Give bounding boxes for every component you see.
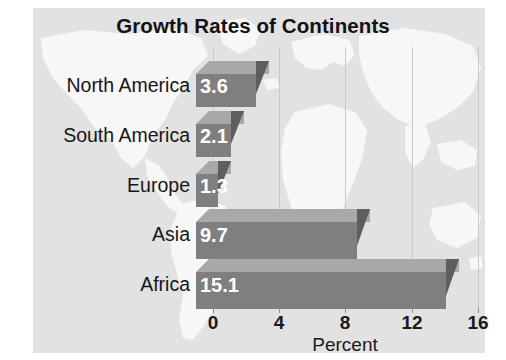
chart-title: Growth Rates of Continents: [0, 14, 506, 38]
bar-top-face-asia: [196, 209, 370, 222]
bar-value-europe: 1.3: [200, 175, 228, 198]
x-axis-title: Percent: [265, 334, 425, 356]
bar-side-face-africa: [446, 259, 459, 296]
bar-side-face-south-america: [231, 111, 244, 144]
bar-side-face-asia: [357, 209, 370, 246]
tick-label-8: 8: [325, 312, 365, 334]
category-label-asia: Asia: [0, 223, 190, 246]
bar-value-africa: 15.1: [200, 274, 239, 297]
tick-label-4: 4: [259, 312, 299, 334]
bar-value-north-america: 3.6: [200, 75, 228, 98]
category-label-africa: Africa: [0, 273, 190, 296]
tick-label-12: 12: [392, 312, 432, 334]
chart-plot-area: 3.6 North America 2.1 South America 1.3 …: [0, 0, 506, 360]
bar-value-south-america: 2.1: [200, 125, 228, 148]
gridline-16: [478, 47, 479, 308]
category-label-north-america: North America: [0, 74, 190, 97]
bar-value-asia: 9.7: [200, 224, 228, 247]
bar-side-face-north-america: [256, 61, 269, 94]
tick-label-0: 0: [193, 312, 233, 334]
chart-screenshot: Growth Rates of Continents 3.6 North Ame…: [0, 0, 506, 360]
bar-top-face-africa: [196, 259, 459, 272]
category-label-south-america: South America: [0, 124, 190, 147]
tick-label-16: 16: [458, 312, 498, 334]
category-label-europe: Europe: [0, 174, 190, 197]
